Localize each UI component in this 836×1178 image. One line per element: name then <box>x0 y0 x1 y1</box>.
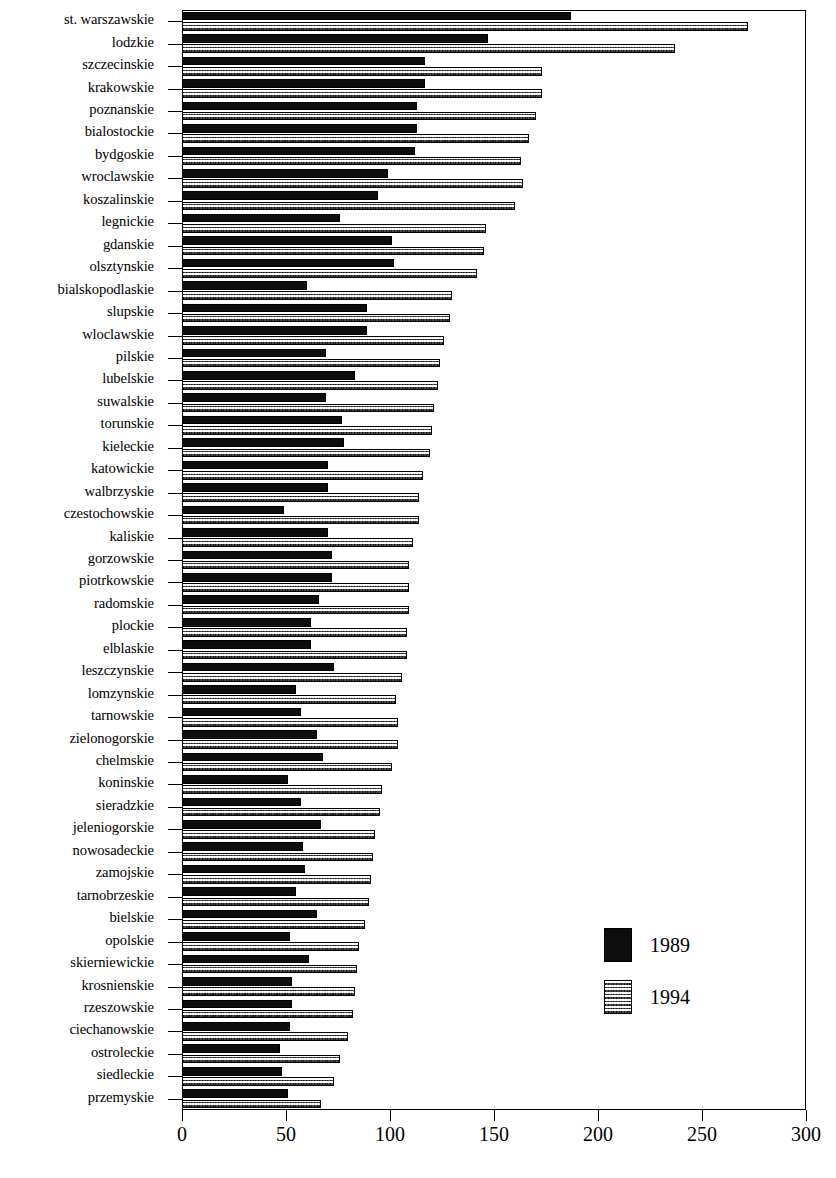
bar-1994 <box>182 695 396 704</box>
category-label-text: sieradzkie <box>96 798 154 813</box>
category-label-text: koninskie <box>98 775 154 790</box>
bar-1989 <box>182 259 394 268</box>
y-axis-tick <box>168 515 182 516</box>
bar-1994 <box>182 493 419 502</box>
y-axis-tick <box>168 470 182 471</box>
legend-label-1989: 1989 <box>650 935 690 955</box>
y-axis-tick <box>168 560 182 561</box>
bar-group <box>182 549 806 571</box>
bar-1989 <box>182 236 392 245</box>
category-label-text: ciechanowskie <box>69 1022 154 1037</box>
x-axis-tick-label: 200 <box>583 1124 613 1144</box>
bar-group <box>182 526 806 548</box>
category-label: przemyskie <box>88 1090 154 1105</box>
category-label-text: szczecinskie <box>82 57 154 72</box>
bar-1994 <box>182 942 359 951</box>
category-label: krosnienskie <box>81 978 154 993</box>
x-axis-tick-label: 150 <box>479 1124 509 1144</box>
bar-1989 <box>182 483 328 492</box>
category-label-text: elblaskie <box>103 641 154 656</box>
y-axis-tick <box>168 425 182 426</box>
bar-1994 <box>182 314 450 323</box>
bar-group <box>182 1020 806 1042</box>
bar-group <box>182 212 806 234</box>
bar-group <box>182 10 806 32</box>
category-label: poznanskie <box>89 102 154 117</box>
category-label-text: przemyskie <box>88 1090 154 1105</box>
category-label-text: ostroleckie <box>91 1045 154 1060</box>
bar-group <box>182 751 806 773</box>
y-axis-tick <box>168 740 182 741</box>
category-label: lodzkie <box>112 35 154 50</box>
category-label: gorzowskie <box>88 551 154 566</box>
bar-1989 <box>182 595 319 604</box>
bar-1989 <box>182 865 305 874</box>
category-label: zamojskie <box>96 865 154 880</box>
bar-1994 <box>182 763 392 772</box>
bar-group <box>182 975 806 997</box>
y-axis-tick <box>168 403 182 404</box>
y-axis-tick <box>168 874 182 875</box>
bar-1989 <box>182 977 292 986</box>
bar-1989 <box>182 124 417 133</box>
category-label-text: koszalinskie <box>83 192 154 207</box>
bar-group <box>182 481 806 503</box>
bar-group <box>182 930 806 952</box>
bar-1994 <box>182 1032 348 1041</box>
x-axis-tick-label: 250 <box>687 1124 717 1144</box>
category-label-text: kaliskie <box>109 529 154 544</box>
bar-1989 <box>182 685 296 694</box>
y-axis-tick <box>168 156 182 157</box>
category-label-text: walbrzyskie <box>85 484 154 499</box>
bar-1994 <box>182 651 407 660</box>
y-axis-tick <box>168 21 182 22</box>
bar-group <box>182 706 806 728</box>
y-axis-tick <box>168 44 182 45</box>
bar-1994 <box>182 740 398 749</box>
bar-1989 <box>182 1000 292 1009</box>
y-axis-tick <box>168 582 182 583</box>
bar-1994 <box>182 89 542 98</box>
category-label: koninskie <box>98 775 154 790</box>
bar-group <box>182 661 806 683</box>
bar-1994 <box>182 359 440 368</box>
x-axis-tick <box>182 1110 183 1121</box>
bar-group <box>182 841 806 863</box>
bar-1994 <box>182 606 409 615</box>
y-axis-tick <box>168 672 182 673</box>
category-label-text: gdanskie <box>103 237 154 252</box>
y-axis-tick <box>168 627 182 628</box>
y-axis-tick <box>168 336 182 337</box>
x-axis-tick-label: 0 <box>177 1124 187 1144</box>
x-axis-tick-label: 300 <box>791 1124 821 1144</box>
bar-1989 <box>182 326 367 335</box>
category-axis: st. warszawskielodzkieszczecinskiekrakow… <box>0 10 182 1110</box>
category-label-text: nowosadeckie <box>73 843 154 858</box>
category-label-text: wloclawskie <box>82 327 154 342</box>
category-label: zielonogorskie <box>69 731 154 746</box>
category-label: pilskie <box>116 349 154 364</box>
bar-group <box>182 234 806 256</box>
bar-1994 <box>182 22 748 31</box>
category-label: czestochowskie <box>64 506 154 521</box>
bar-group <box>182 863 806 885</box>
bar-1989 <box>182 730 317 739</box>
bar-1994 <box>182 471 423 480</box>
bar-group <box>182 437 806 459</box>
bar-1989 <box>182 191 378 200</box>
category-label-text: zamojskie <box>96 865 154 880</box>
bar-group <box>182 728 806 750</box>
y-axis-tick <box>168 201 182 202</box>
bar-1989 <box>182 775 288 784</box>
category-label-text: poznanskie <box>89 102 154 117</box>
bar-1989 <box>182 842 303 851</box>
category-label: jeleniogorskie <box>73 820 154 835</box>
bar-group <box>182 773 806 795</box>
y-axis-tick <box>168 852 182 853</box>
bar-1989 <box>182 461 328 470</box>
category-label: rzeszowskie <box>84 1000 154 1015</box>
category-label: ciechanowskie <box>69 1022 154 1037</box>
bar-1994 <box>182 538 413 547</box>
bar-group <box>182 594 806 616</box>
category-label: siedleckie <box>97 1067 154 1082</box>
